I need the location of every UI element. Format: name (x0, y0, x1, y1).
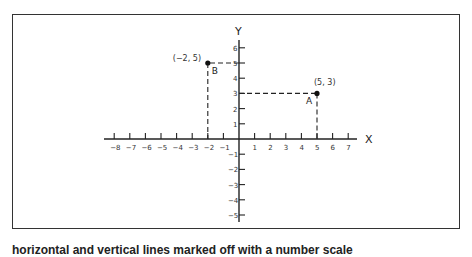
figure-caption: horizontal and vertical lines marked off… (12, 243, 472, 257)
point-a-marker (314, 91, 319, 96)
y-tick-label: 4 (233, 75, 238, 83)
y-tick-label: −1 (228, 151, 238, 159)
x-tick-label: −7 (126, 144, 136, 152)
y-tick-label: −2 (228, 166, 238, 174)
x-tick-label: 1 (253, 144, 257, 152)
x-tick-label: −3 (188, 144, 198, 152)
y-tick-label: −5 (228, 212, 238, 220)
x-tick-label: 2 (268, 144, 272, 152)
x-tick-label: 6 (331, 144, 336, 152)
x-tick-label: −8 (110, 144, 120, 152)
y-tick-label: 5 (233, 60, 237, 68)
y-tick-label: 1 (233, 121, 237, 129)
x-tick-label: 3 (284, 144, 288, 152)
x-axis-label: X (365, 133, 373, 146)
point-b-marker (205, 60, 210, 65)
y-tick-label: 6 (233, 45, 238, 53)
y-tick-label: 3 (233, 90, 237, 98)
x-tick-label: −2 (204, 144, 214, 152)
x-tick-label: 7 (346, 144, 350, 152)
x-tick-label: −4 (173, 144, 184, 152)
point-b-name-label: B (212, 66, 218, 76)
point-a-coord-label: (5, 3) (314, 78, 336, 87)
x-tick-label: −6 (141, 144, 152, 152)
x-tick-label: 4 (299, 144, 304, 152)
y-tick-label: 2 (233, 106, 237, 114)
point-b-coord-label: (−2, 5) (173, 54, 201, 63)
x-tick-label: 5 (315, 144, 319, 152)
x-tick-label: −5 (157, 144, 167, 152)
y-tick-label: −3 (228, 182, 238, 190)
point-a-name-label: A (306, 96, 313, 106)
y-axis-label: Y (234, 25, 242, 38)
y-tick-label: −4 (228, 197, 239, 205)
